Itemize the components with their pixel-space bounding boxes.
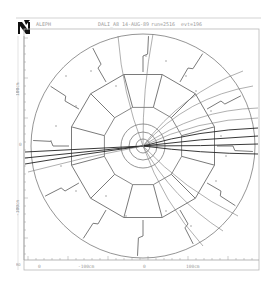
ecal-module-boundary: [91, 174, 115, 198]
hcal-module-boundary: [45, 183, 79, 196]
hcal-module-boundary: [93, 48, 106, 82]
x-label-corner: 0: [38, 264, 41, 269]
hcal-module-boundary: [207, 96, 241, 109]
ecal-module-boundary: [182, 127, 215, 136]
hcal-module-boundary: [180, 54, 203, 82]
ecal-module-boundary: [182, 156, 215, 165]
event-display: ALEPH DALI_A8 14-AUG-89 run=2516 evt=196…: [16, 16, 261, 272]
ecal-module-boundary: [124, 185, 133, 218]
ecal-module-boundary: [72, 156, 105, 165]
calorimeter-hit: [185, 75, 186, 76]
ecal-module-boundary: [171, 94, 195, 118]
calorimeter-hit: [145, 55, 146, 56]
calorimeter-hit: [75, 105, 76, 106]
calorimeter-hit: [195, 90, 196, 91]
hcal-module-boundary: [207, 183, 235, 206]
y-label-top: 100cm: [16, 82, 20, 96]
calorimeter-hit: [165, 210, 166, 211]
hcal-module-boundary: [51, 86, 79, 109]
plot-frame: [24, 29, 259, 270]
particle-track: [118, 36, 143, 146]
particle-track: [143, 146, 258, 154]
calorimeter-hit: [190, 225, 191, 226]
experiment-label: ALEPH: [36, 21, 51, 27]
ecal-module-boundary: [153, 185, 162, 218]
calorimeter-hit: [90, 70, 91, 71]
calorimeter-hit: [65, 75, 66, 76]
calorimeter-hit: [165, 60, 166, 61]
header-bar: ALEPH DALI_A8 14-AUG-89 run=2516 evt=196: [16, 18, 261, 34]
y-axis: [24, 36, 28, 260]
calorimeter-hit: [105, 195, 106, 196]
calorimeter-hit: [75, 190, 76, 191]
x-label-left: -100cm: [78, 264, 95, 269]
hcal-module-boundary: [180, 210, 193, 244]
y-label-zero: 0: [19, 142, 22, 147]
run-label: run=2516: [151, 21, 175, 27]
calorimeter-hit: [60, 165, 61, 166]
hcal-module-boundary: [217, 146, 253, 151]
x-label-right: 100cm: [186, 264, 200, 269]
calorimeter-hit: [50, 140, 51, 141]
particle-tracks: [25, 34, 258, 246]
calorimeter-hit: [210, 110, 211, 111]
particle-track: [143, 146, 238, 216]
particle-track: [143, 146, 223, 231]
particle-track: [143, 108, 258, 146]
calorimeter-hit: [125, 215, 126, 216]
ecal-module-boundary: [91, 94, 115, 118]
calorimeter-hit: [55, 125, 56, 126]
date-label: 14-AUG-89: [122, 21, 149, 27]
event-label: evt=196: [181, 21, 202, 27]
ecal-module-boundary: [72, 127, 105, 136]
x-label-zero: 0: [143, 264, 146, 269]
particle-track: [25, 146, 143, 152]
ecal-module-boundary: [124, 75, 133, 108]
calorimeter-hit: [215, 180, 216, 181]
ecal-module-boundary: [171, 174, 195, 198]
ecal-module-boundary: [153, 75, 162, 108]
y-label-bottom: -100cm: [16, 199, 20, 216]
event-display-canvas: ALEPH DALI_A8 14-AUG-89 run=2516 evt=196…: [16, 16, 261, 272]
particle-track: [25, 146, 143, 158]
calorimeter-hit: [220, 135, 221, 136]
hcal-module-boundary: [138, 220, 143, 256]
program-label: DALI_A8: [98, 21, 119, 28]
calorimeter-hit: [115, 85, 116, 86]
calorimeter-hit: [225, 155, 226, 156]
corner-label: RO: [16, 262, 21, 267]
hcal-module-boundary: [83, 210, 106, 238]
